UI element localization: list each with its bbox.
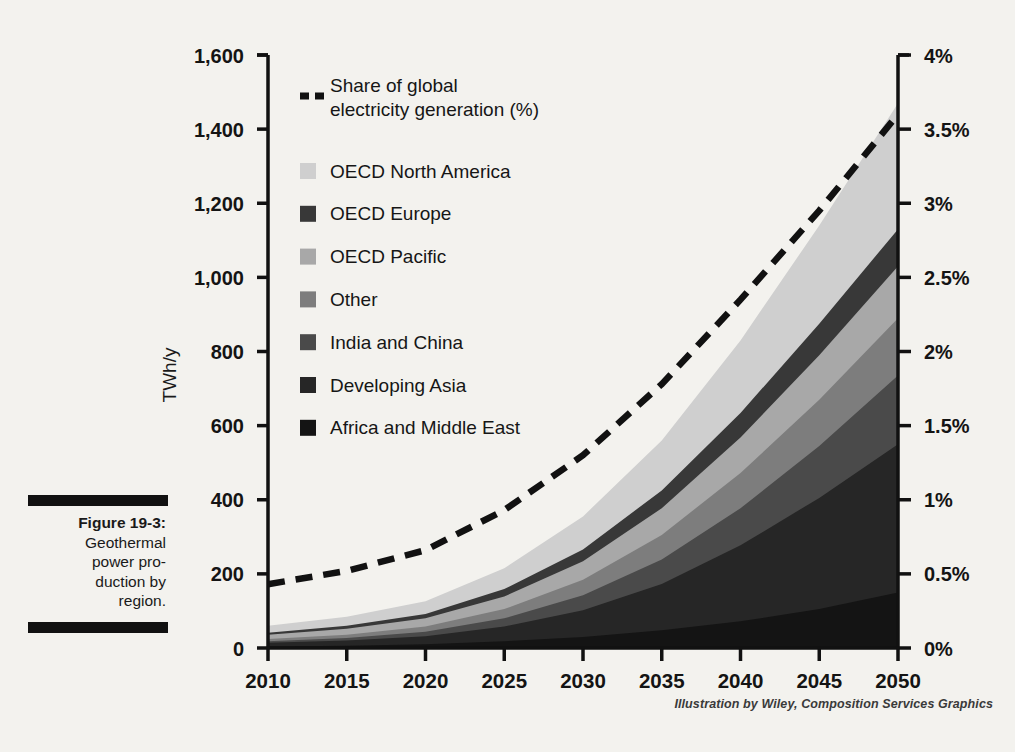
- legend-swatch-developing-asia: [300, 377, 316, 393]
- legend-swatch-oecd-europe: [300, 206, 316, 222]
- y-axis-title: TWh/y: [159, 347, 180, 402]
- right-tick-label: 3%: [924, 193, 953, 215]
- left-tick-label: 200: [211, 563, 244, 585]
- left-tick-label: 400: [211, 489, 244, 511]
- right-tick-label: 0.5%: [924, 563, 970, 585]
- left-tick-label: 1,200: [194, 193, 244, 215]
- chart-legend: Share of globalelectricity generation (%…: [300, 75, 539, 438]
- stacked-area-chart: 02004006008001,0001,2001,4001,600 0%0.5%…: [0, 0, 1015, 752]
- x-tick-label: 2035: [639, 669, 685, 692]
- legend-line-label-2: electricity generation (%): [330, 99, 539, 120]
- legend-swatch-india-and-china: [300, 334, 316, 350]
- left-tick-label: 800: [211, 341, 244, 363]
- left-tick-label: 0: [233, 638, 244, 660]
- right-tick-label: 2%: [924, 341, 953, 363]
- figure-page: Figure 19-3: Geothermal power pro- ducti…: [0, 0, 1015, 752]
- legend-label-oecd-north-america: OECD North America: [330, 161, 511, 182]
- chart-container: 02004006008001,0001,2001,4001,600 0%0.5%…: [0, 0, 1015, 752]
- legend-label-other: Other: [330, 289, 378, 310]
- legend-label-africa-and-middle-east: Africa and Middle East: [330, 417, 521, 438]
- y-axis-label: TWh/y: [159, 347, 180, 402]
- legend-swatch-africa-and-middle-east: [300, 420, 316, 436]
- legend-swatch-oecd-pacific: [300, 249, 316, 265]
- right-tick-label: 0%: [924, 638, 953, 660]
- left-axis-ticks: 02004006008001,0001,2001,4001,600: [194, 45, 268, 660]
- legend-label-oecd-pacific: OECD Pacific: [330, 246, 446, 267]
- x-tick-label: 2015: [324, 669, 370, 692]
- x-tick-label: 2010: [245, 669, 291, 692]
- legend-swatch-other: [300, 291, 316, 307]
- right-tick-label: 4%: [924, 45, 953, 67]
- x-tick-label: 2025: [481, 669, 527, 692]
- right-tick-label: 1%: [924, 489, 953, 511]
- left-tick-label: 1,000: [194, 267, 244, 289]
- right-tick-label: 1.5%: [924, 415, 970, 437]
- legend-label-oecd-europe: OECD Europe: [330, 203, 451, 224]
- x-axis-ticks: 201020152020202520302035204020452050: [245, 648, 921, 692]
- x-tick-label: 2050: [875, 669, 921, 692]
- illustration-credit: Illustration by Wiley, Composition Servi…: [674, 697, 993, 711]
- left-tick-label: 600: [211, 415, 244, 437]
- legend-label-india-and-china: India and China: [330, 332, 464, 353]
- legend-line-label-1: Share of global: [330, 75, 458, 96]
- x-tick-label: 2045: [796, 669, 842, 692]
- right-tick-label: 3.5%: [924, 119, 970, 141]
- x-tick-label: 2040: [718, 669, 764, 692]
- right-tick-label: 2.5%: [924, 267, 970, 289]
- x-tick-label: 2030: [560, 669, 606, 692]
- legend-label-developing-asia: Developing Asia: [330, 375, 467, 396]
- legend-swatch-oecd-north-america: [300, 163, 316, 179]
- left-tick-label: 1,600: [194, 45, 244, 67]
- right-axis-ticks: 0%0.5%1%1.5%2%2.5%3%3.5%4%: [898, 45, 970, 660]
- left-tick-label: 1,400: [194, 119, 244, 141]
- x-tick-label: 2020: [403, 669, 449, 692]
